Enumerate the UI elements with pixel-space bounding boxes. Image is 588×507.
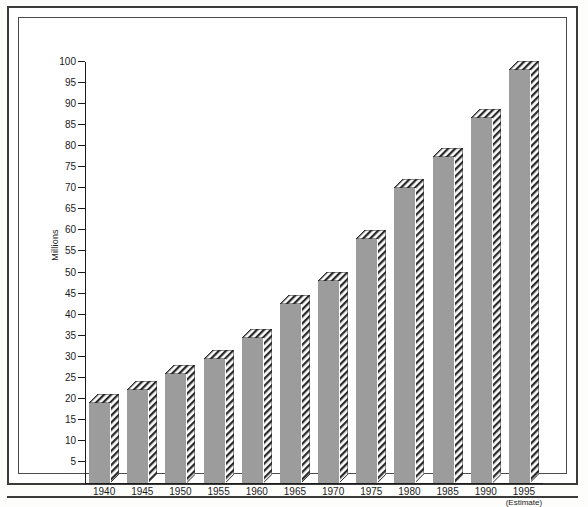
bar-side-face — [186, 365, 195, 483]
y-axis-tick: 15 — [41, 414, 85, 426]
bar-side-face — [339, 272, 348, 483]
bar — [318, 272, 348, 483]
y-axis-tick-mark — [78, 335, 85, 336]
y-axis-tick: 100 — [41, 56, 85, 68]
bar-front-face — [394, 188, 416, 483]
y-axis-tick-label: 50 — [65, 267, 76, 279]
y-axis-tick-label: 5 — [70, 456, 76, 468]
y-axis-tick-mark — [78, 208, 85, 209]
y-axis-tick-mark — [78, 166, 85, 167]
y-axis-tick-label: 45 — [65, 288, 76, 300]
y-axis-tick-mark — [78, 187, 85, 188]
bar-front-face — [433, 157, 455, 483]
bar-side-face — [377, 230, 386, 483]
y-axis-tick: 25 — [41, 372, 85, 384]
y-axis-tick-label: 20 — [65, 393, 76, 405]
y-axis-tick: 55 — [41, 245, 85, 257]
y-axis-tick-mark — [78, 314, 85, 315]
y-axis-tick-label: 90 — [65, 98, 76, 110]
bar — [127, 381, 157, 483]
y-axis-tick-mark — [78, 61, 85, 62]
bar — [509, 61, 539, 483]
bar-front-face — [509, 70, 531, 483]
bar — [394, 179, 424, 483]
bar-side-face — [530, 61, 539, 483]
y-axis-tick-label: 70 — [65, 182, 76, 194]
bar-front-face — [204, 359, 226, 483]
y-axis-tick: 10 — [41, 435, 85, 447]
y-axis-tick: 45 — [41, 288, 85, 300]
y-axis-tick: 75 — [41, 161, 85, 173]
y-axis-tick: 35 — [41, 330, 85, 342]
y-axis-tick: 85 — [41, 119, 85, 131]
y-axis-tick: 60 — [41, 224, 85, 236]
bar-side-face — [110, 394, 119, 483]
bar-side-face — [225, 350, 234, 483]
y-axis-tick-mark — [78, 103, 85, 104]
y-axis-tick-label: 75 — [65, 161, 76, 173]
y-axis-tick: 20 — [41, 393, 85, 405]
bar — [471, 109, 501, 483]
bar-front-face — [356, 239, 378, 483]
bar-front-face — [127, 390, 149, 483]
y-axis-tick-label: 85 — [65, 119, 76, 131]
y-axis-tick-mark — [78, 124, 85, 125]
y-axis-tick: 30 — [41, 351, 85, 363]
y-axis-tick: 50 — [41, 267, 85, 279]
bar-front-face — [471, 118, 493, 483]
y-axis-tick: 65 — [41, 203, 85, 215]
bar-front-face — [318, 281, 340, 483]
bar — [89, 394, 119, 483]
y-axis-tick-label: 60 — [65, 224, 76, 236]
bar — [204, 350, 234, 483]
bar-series — [85, 18, 543, 484]
y-axis-tick-label: 40 — [65, 309, 76, 321]
y-axis-tick-mark — [78, 398, 85, 399]
y-axis-tick-mark — [78, 356, 85, 357]
x-axis-tick-label-note: (Estimate) — [496, 498, 552, 507]
chart-page: Millions 1009590858075706560555045403530… — [0, 0, 588, 507]
bar — [356, 230, 386, 483]
y-axis-tick-label: 100 — [59, 56, 76, 68]
y-axis-tick-mark — [78, 293, 85, 294]
y-axis-tick-label: 80 — [65, 140, 76, 152]
bar — [242, 329, 272, 483]
page-bottom-rule — [7, 496, 578, 498]
y-axis-tick: 40 — [41, 309, 85, 321]
bar-front-face — [165, 374, 187, 483]
bar — [433, 148, 463, 483]
y-axis-tick-mark — [78, 461, 85, 462]
y-axis-tick-mark — [78, 440, 85, 441]
bar — [280, 295, 310, 483]
y-axis-tick: 70 — [41, 182, 85, 194]
y-axis-tick-label: 30 — [65, 351, 76, 363]
y-axis-tick-mark — [78, 250, 85, 251]
y-axis-tick-label: 65 — [65, 203, 76, 215]
bar-side-face — [492, 109, 501, 483]
y-axis-tick-mark — [78, 419, 85, 420]
y-axis-tick-mark — [78, 377, 85, 378]
y-axis-tick-label: 10 — [65, 435, 76, 447]
bar-side-face — [301, 295, 310, 483]
bar-front-face — [89, 403, 111, 483]
y-axis-tick: 80 — [41, 140, 85, 152]
bar-front-face — [280, 304, 302, 483]
y-axis-tick-label: 35 — [65, 330, 76, 342]
bar-front-face — [242, 338, 264, 483]
y-axis-tick: 95 — [41, 77, 85, 89]
y-axis-tick-mark — [78, 229, 85, 230]
y-axis-tick: 90 — [41, 98, 85, 110]
y-axis-tick-mark — [78, 82, 85, 83]
chart-inner-frame: Millions 1009590858075706560555045403530… — [18, 17, 567, 474]
bar — [165, 365, 195, 483]
bar-side-face — [415, 179, 424, 483]
y-axis-tick-label: 15 — [65, 414, 76, 426]
y-axis-tick-label: 55 — [65, 245, 76, 257]
y-axis-tick-label: 25 — [65, 372, 76, 384]
y-axis-tick-mark — [78, 272, 85, 273]
chart-outer-frame: Millions 1009590858075706560555045403530… — [7, 6, 578, 485]
bar-side-face — [454, 148, 463, 483]
y-axis-tick-mark — [78, 145, 85, 146]
y-axis-tick: 5 — [41, 456, 85, 468]
plot-area: Millions 1009590858075706560555045403530… — [19, 18, 566, 473]
